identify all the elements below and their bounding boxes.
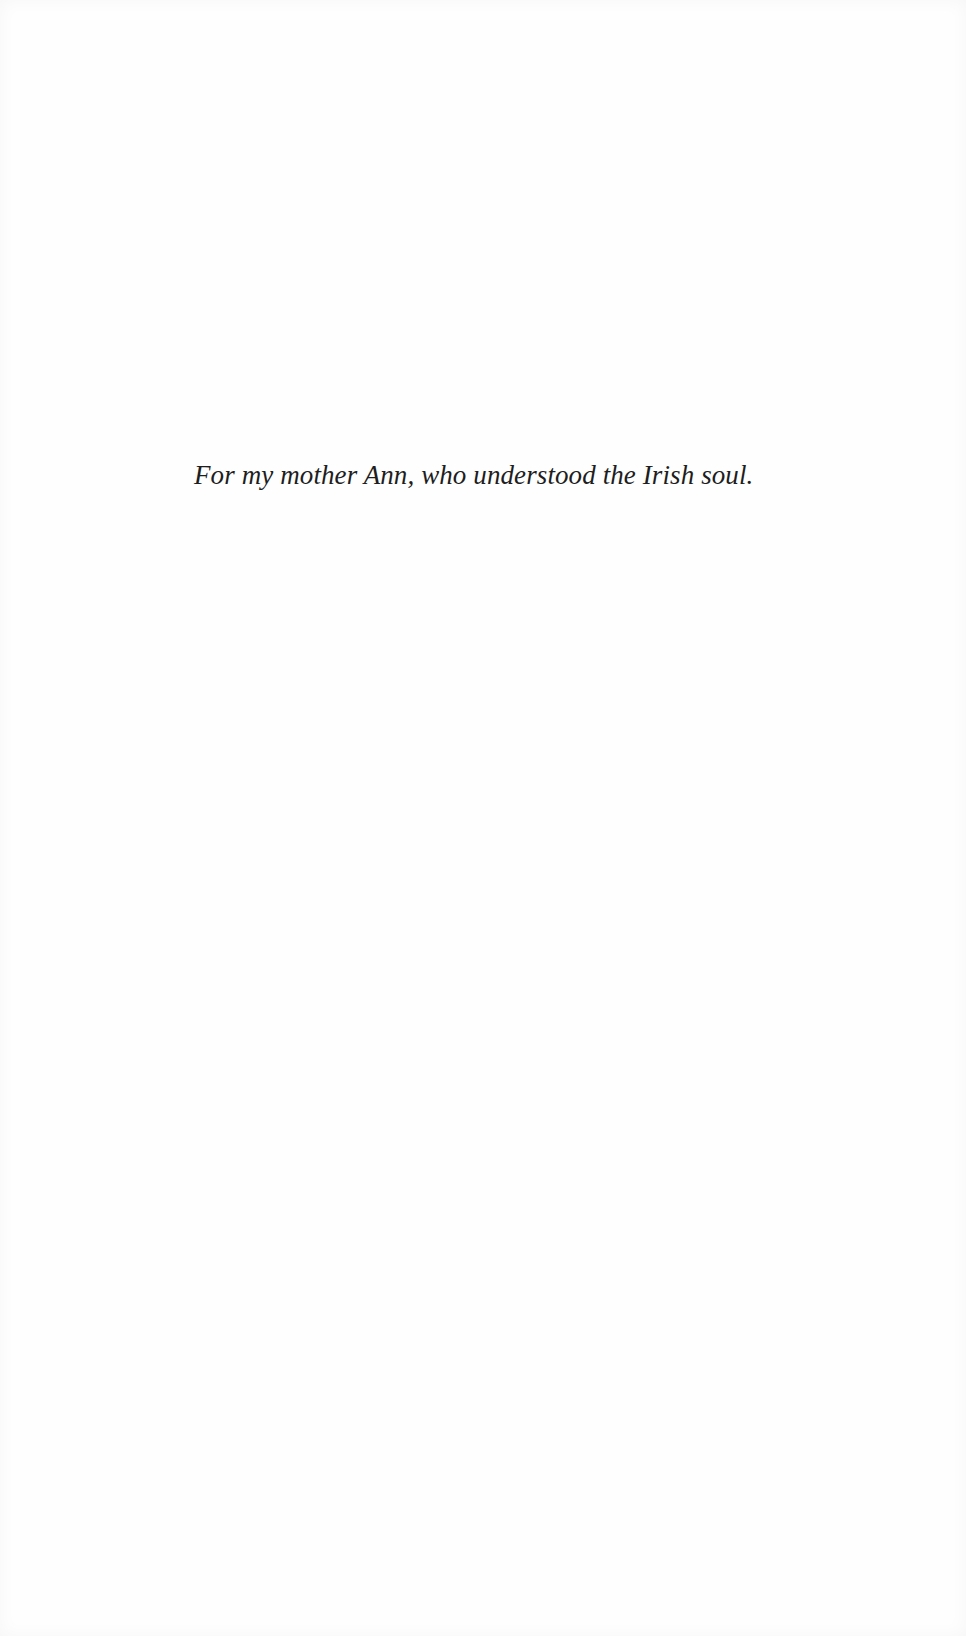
dedication-text: For my mother Ann, who understood the Ir… — [194, 459, 753, 491]
book-page: For my mother Ann, who understood the Ir… — [0, 0, 966, 1636]
